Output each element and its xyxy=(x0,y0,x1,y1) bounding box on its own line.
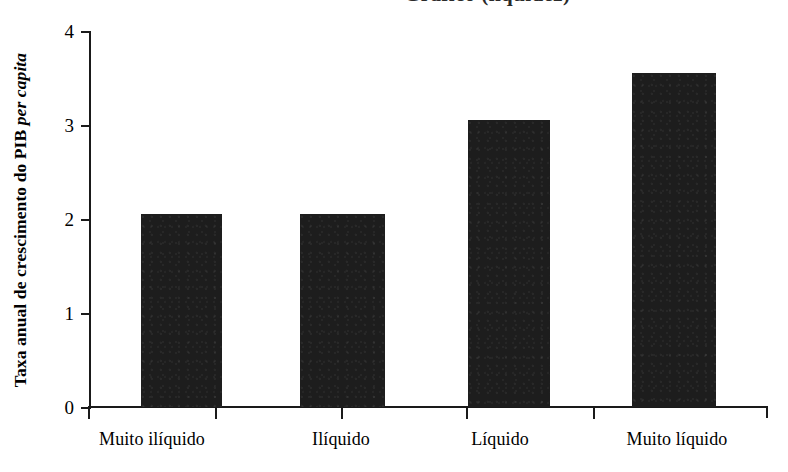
bar-muito-liquido xyxy=(632,73,716,407)
y-axis-title-italic: per capita xyxy=(10,53,30,125)
bar-iliquido xyxy=(300,214,385,407)
x-tick-boundary-4 xyxy=(593,406,595,419)
x-category-label-iliquido: Ilíquido xyxy=(312,429,370,450)
y-tick-label-2: 2 xyxy=(65,210,75,229)
bar-liquido xyxy=(468,120,550,407)
y-axis-title-text: Taxa anual de crescimento do PIB per cap… xyxy=(10,53,31,387)
x-tick-boundary-3 xyxy=(466,406,468,419)
x-tick-boundary-2 xyxy=(341,406,343,419)
y-axis-title: Taxa anual de crescimento do PIB per cap… xyxy=(0,20,40,420)
y-tick-3: 3 xyxy=(81,125,91,127)
x-category-label-muito-liquido: Muito líquido xyxy=(627,429,728,450)
y-tick-label-4: 4 xyxy=(65,22,75,41)
y-tick-2: 2 xyxy=(81,219,91,221)
x-tick-boundary-1 xyxy=(215,406,217,419)
y-tick-label-3: 3 xyxy=(65,116,75,135)
y-tick-label-1: 1 xyxy=(65,304,75,323)
plot-area: 4 3 2 1 0 Muito ilíquido Ilíquido Líquid… xyxy=(89,31,768,408)
y-tick-1: 1 xyxy=(81,313,91,315)
y-axis-title-main: Taxa anual de crescimento do PIB xyxy=(10,125,30,387)
y-tick-4: 4 xyxy=(81,31,91,33)
y-tick-label-0: 0 xyxy=(65,398,75,417)
bar-chart-figure: Gráfico (liquidez) Taxa anual de crescim… xyxy=(0,0,788,472)
clipped-title-text: Gráfico (liquidez) xyxy=(404,0,570,7)
x-axis-right-cap xyxy=(766,406,768,418)
bar-muito-iliquido xyxy=(141,214,222,407)
clipped-title-strip: Gráfico (liquidez) xyxy=(0,0,788,14)
x-category-label-muito-iliquido: Muito ilíquido xyxy=(99,429,205,450)
x-tick-boundary-0 xyxy=(88,406,90,419)
x-category-label-liquido: Líquido xyxy=(471,429,529,450)
